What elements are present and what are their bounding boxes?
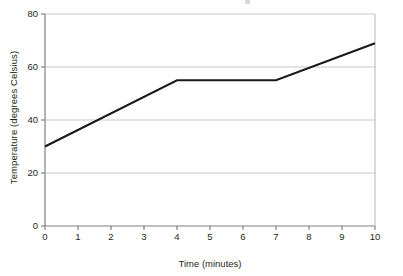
gridlines xyxy=(45,14,375,173)
x-tick-marks xyxy=(45,226,375,230)
chart-canvas xyxy=(0,0,403,276)
line-chart: Temperature (degrees Celsius) Time (minu… xyxy=(0,0,403,276)
temperature-data-line xyxy=(45,43,375,146)
